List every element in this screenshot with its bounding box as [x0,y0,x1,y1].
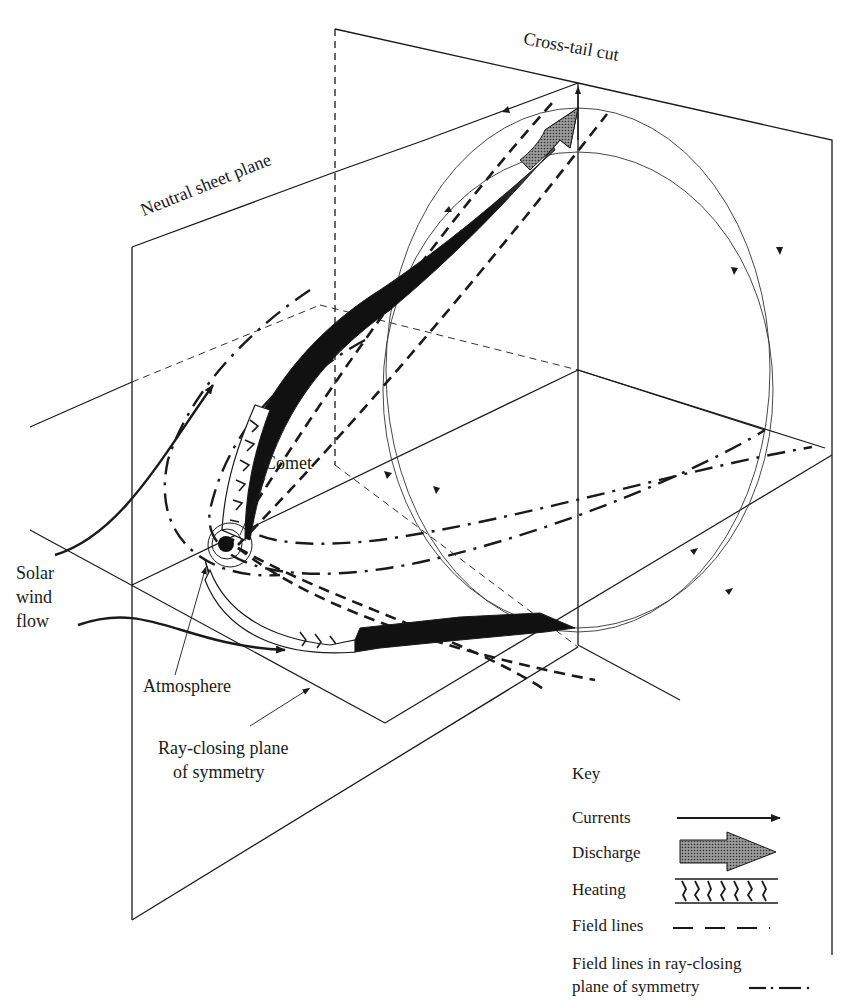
atmosphere-label: Atmosphere [143,676,231,696]
comet-nucleus [218,536,234,552]
key-item-ray-closing-field-lines-line1: Field lines in ray-closing [572,954,742,974]
key-discharge-symbol [680,832,776,871]
key-currents-label: Currents [572,808,631,828]
key-item-discharge: Discharge [572,843,641,863]
key-heating-symbol [675,879,778,903]
key-item-ray-closing-field-lines-line2: plane of symmetry [572,977,699,997]
key-ray-closing-label-line1: Field lines in ray-closing [572,954,742,974]
comet-tail-diagram [0,0,851,1004]
key-item-field-lines: Field lines [572,916,643,936]
neutral-sheet-plane [132,83,578,920]
ray-closing-label-line1: Ray-closing plane [158,738,288,758]
key-heating-label: Heating [572,880,626,900]
key-discharge-label: Discharge [572,843,641,863]
key-title: Key [572,764,600,784]
solar-wind-label-line3: flow [16,611,49,631]
key-field-lines-label: Field lines [572,916,643,936]
comet-label: Comet [264,453,312,473]
key-ray-closing-field-lines-symbol [749,987,809,990]
solar-wind-label-line2: wind [16,587,52,607]
key-ray-closing-label-line2: plane of symmetry [572,977,699,997]
key-item-currents: Currents [572,808,631,828]
solar-wind-label-line1: Solar [16,563,54,583]
discharge-upper-band [222,108,578,540]
key-item-heating: Heating [572,880,626,900]
ray-closing-plane [30,305,832,723]
field-loop-arrows [384,106,783,595]
ray-closing-label-line2: of symmetry [173,762,265,782]
